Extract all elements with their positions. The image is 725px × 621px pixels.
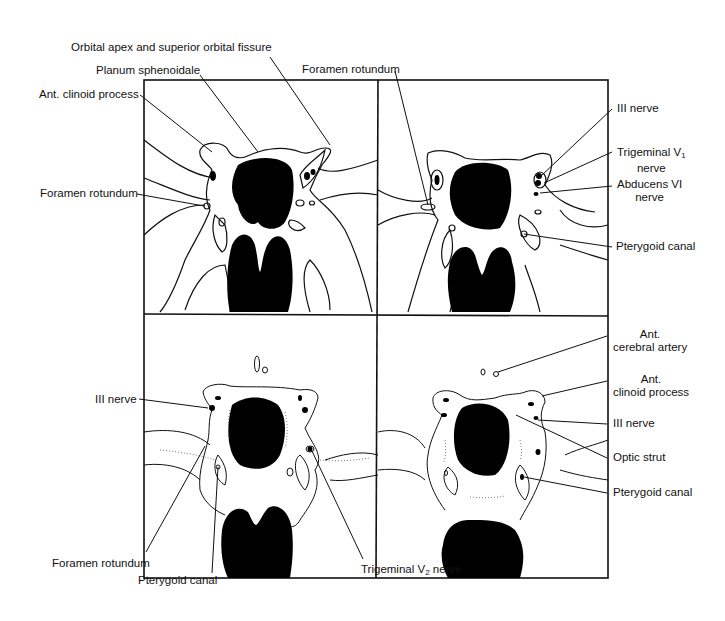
label-abducens-vi-nerve: Abducens VI nerve [617,178,682,204]
label-ant-clinoid-process-br: Ant. clinoid process [613,373,689,399]
label-foramen-rotundum-tl: Foramen rotundum [40,187,138,200]
label-optic-strut: Optic strut [613,451,665,464]
ant-cerebral-ant-text: Ant. [640,328,660,340]
label-iii-nerve-tr: III nerve [617,102,659,115]
panel-bottom-right [378,369,608,578]
trigeminal-v1-text: Trigeminal V [617,146,681,158]
panel-top-left [144,140,378,312]
label-ant-cerebral-artery: Ant. cerebral artery [613,328,687,354]
label-iii-nerve-bl: III nerve [95,393,137,406]
abducens-nerve-text: nerve [635,191,664,203]
trigeminal-v1-nerve-text: nerve [637,162,666,174]
ant-cerebral-artery-text: cerebral artery [613,341,687,353]
label-trigeminal-v2-nerve: Trigeminal V2 nerve [361,563,462,579]
label-iii-nerve-br: III nerve [613,417,655,430]
ant-clinoid-ant-text: Ant. [641,373,661,385]
label-trigeminal-v1-nerve: Trigeminal V1 nerve [617,146,686,175]
horizontal-divider [144,314,608,316]
abducens-text: Abducens VI [617,178,682,190]
label-pterygoid-canal-br: Pterygoid canal [613,486,692,499]
label-foramen-rotundum-bl: Foramen rotundum [52,557,150,570]
panel-top-right [378,151,608,312]
label-orbital-apex: Orbital apex and superior orbital fissur… [71,41,272,54]
trigeminal-v2-nerve-text: nerve [430,563,462,575]
label-planum-sphenoidale: Planum sphenoidale [96,64,200,77]
ant-clinoid-process-text: clinoid process [613,386,689,398]
panel-bottom-left [144,356,378,578]
label-ant-clinoid-process-tl: Ant. clinoid process [39,88,139,101]
vertical-divider [376,80,378,578]
trigeminal-v2-text: Trigeminal V [361,563,425,575]
trigeminal-v1-subscript: 1 [681,151,685,160]
label-foramen-rotundum-top: Foramen rotundum [302,63,400,76]
label-pterygoid-canal-bl: Pterygoid canal [138,574,217,587]
label-pterygoid-canal-tr: Pterygoid canal [616,240,695,253]
